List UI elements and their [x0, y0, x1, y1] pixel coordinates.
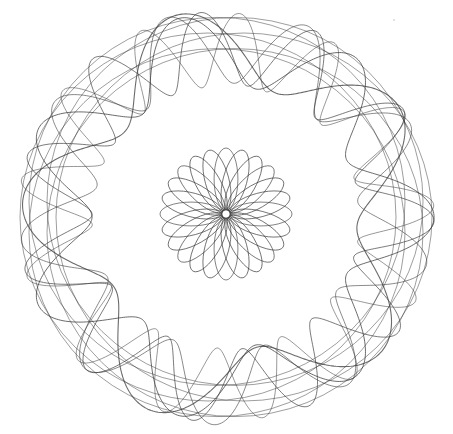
spirograph-svg — [0, 0, 453, 434]
paper-speck — [393, 19, 395, 21]
spirograph-drawing — [0, 0, 453, 434]
inner-rose-pattern — [159, 147, 293, 281]
